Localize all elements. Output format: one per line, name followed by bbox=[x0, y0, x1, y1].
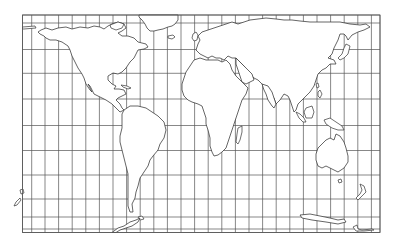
greenland bbox=[139, 15, 178, 31]
borneo bbox=[304, 106, 314, 118]
british-isles bbox=[192, 32, 198, 41]
alaska-arctic-island bbox=[23, 26, 37, 29]
antarctica-east bbox=[300, 214, 346, 224]
north-america bbox=[38, 22, 148, 112]
taiwan bbox=[316, 83, 319, 88]
antarctica-west bbox=[112, 218, 140, 233]
tasmania bbox=[338, 179, 342, 183]
pacific-island-south bbox=[20, 189, 24, 194]
landmasses bbox=[14, 15, 374, 233]
new-guinea bbox=[324, 118, 344, 130]
cuba bbox=[121, 85, 131, 89]
iceland bbox=[168, 35, 175, 39]
madagascar bbox=[236, 126, 242, 144]
australia bbox=[316, 134, 348, 172]
pacific-island-south-2 bbox=[14, 198, 21, 206]
antarctica-ross-coast bbox=[353, 225, 374, 231]
world-map-canvas bbox=[0, 0, 394, 247]
world-map bbox=[0, 0, 394, 247]
philippines bbox=[318, 90, 322, 98]
